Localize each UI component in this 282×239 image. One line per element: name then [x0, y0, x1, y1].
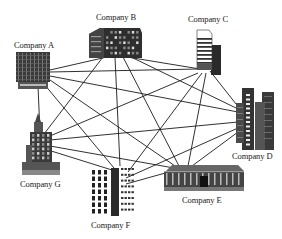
edge-a-c — [50, 69, 198, 72]
building-detail — [237, 131, 243, 132]
building-detail — [42, 139, 44, 142]
building-detail — [237, 125, 243, 126]
building-detail — [37, 157, 39, 160]
building-detail — [128, 180, 130, 182]
building-detail — [104, 196, 107, 201]
building-detail — [92, 209, 95, 214]
building-detail — [91, 36, 101, 37]
building-detail — [172, 173, 174, 185]
building-detail — [178, 173, 180, 185]
building-detail — [104, 177, 107, 182]
building-detail — [119, 41, 121, 44]
building-detail — [98, 209, 101, 214]
building-detail — [110, 52, 112, 55]
building-detail — [121, 185, 123, 187]
building-detail — [121, 191, 123, 193]
building-detail — [264, 120, 272, 121]
company-b-building — [89, 28, 142, 58]
building-detail — [16, 75, 50, 76]
building-detail — [220, 173, 222, 185]
building-detail — [42, 157, 44, 160]
building-detail — [132, 168, 134, 170]
building-detail — [246, 99, 250, 101]
building-detail — [164, 171, 244, 172]
building-detail — [125, 185, 127, 187]
company-a-building — [16, 52, 50, 89]
building-detail — [232, 173, 234, 185]
building-detail — [16, 55, 50, 56]
edge-c-g — [50, 73, 198, 136]
building-detail — [37, 152, 39, 155]
building-detail — [246, 94, 250, 96]
building-detail — [246, 117, 250, 119]
building-detail — [264, 108, 272, 109]
building-detail — [128, 185, 130, 187]
building-detail — [246, 103, 250, 105]
building-detail — [132, 209, 134, 211]
spired-tower-icon — [22, 113, 60, 175]
building-detail — [16, 71, 50, 72]
building-detail — [121, 180, 123, 182]
building-detail — [132, 197, 134, 199]
skyscraper-cluster-icon — [236, 88, 274, 150]
building-detail — [91, 41, 101, 42]
company-b-label: Company B — [96, 12, 136, 22]
building-detail — [47, 139, 49, 142]
building-detail — [132, 180, 134, 182]
building-detail — [106, 36, 108, 39]
building-detail — [128, 41, 130, 44]
building-detail — [42, 148, 44, 151]
building-detail — [98, 170, 101, 175]
building-detail — [197, 50, 212, 52]
building-detail — [104, 209, 107, 214]
edge-b-c — [127, 57, 200, 69]
low-long-building-icon — [164, 165, 244, 191]
building-detail — [42, 143, 44, 146]
building-detail — [119, 52, 121, 55]
office-block-icon — [16, 52, 50, 89]
building-detail — [115, 31, 117, 34]
building-detail — [128, 168, 130, 170]
building-detail — [16, 59, 50, 60]
building-detail — [264, 114, 272, 115]
building-detail — [125, 191, 127, 193]
building-detail — [92, 170, 95, 175]
edge-e-g — [50, 146, 174, 168]
building-detail — [196, 173, 198, 185]
building-detail — [128, 203, 130, 205]
building-detail — [246, 126, 250, 128]
building-detail — [16, 79, 50, 80]
edge-a-e — [50, 80, 178, 168]
building-detail — [32, 148, 34, 151]
building-detail — [47, 148, 49, 151]
building-detail — [132, 36, 134, 39]
building-detail — [121, 168, 123, 170]
building-detail — [246, 139, 250, 141]
building-detail — [125, 180, 127, 182]
building-detail — [121, 197, 123, 199]
building-detail — [132, 47, 134, 50]
building-detail — [237, 137, 243, 138]
building-detail — [136, 52, 138, 55]
building-detail — [98, 183, 101, 188]
building-detail — [92, 177, 95, 182]
company-g-building — [22, 113, 60, 175]
building-detail — [92, 190, 95, 195]
edge-b-g — [44, 57, 103, 134]
edge-c-d — [210, 71, 236, 104]
building-detail — [32, 152, 34, 155]
building-detail — [136, 41, 138, 44]
building-detail — [184, 173, 186, 185]
building-detail — [246, 144, 250, 146]
building-detail — [91, 51, 101, 52]
building-detail — [197, 58, 212, 60]
building-detail — [226, 173, 228, 185]
building-detail — [132, 52, 134, 55]
building-detail — [197, 38, 212, 40]
grid-windows-building-icon — [92, 168, 134, 216]
building-detail — [106, 41, 108, 44]
building-detail — [208, 173, 210, 185]
building-detail — [128, 174, 130, 176]
building-detail — [37, 143, 39, 146]
building-detail — [132, 31, 134, 34]
